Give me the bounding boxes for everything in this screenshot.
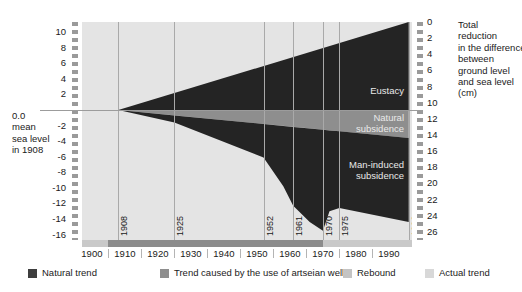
right-axis-tick-12: 12 — [427, 114, 443, 124]
inner-year-label-1996: 1996 — [411, 216, 412, 236]
right-axis-caption-line-4: ground level — [458, 65, 522, 76]
x-axis-tick-1960: 1960 — [275, 249, 305, 259]
area-label-eustacy-line-0: Eustacy — [282, 86, 404, 97]
right-axis-caption-line-3: between — [458, 53, 522, 64]
left-axis-tick--2: -2 — [40, 121, 66, 131]
left-axis-tick--10: -10 — [40, 183, 66, 193]
right-axis-tick-14: 14 — [427, 130, 443, 140]
x-axis-separator-1950 — [240, 249, 241, 258]
left-axis-rail — [72, 22, 78, 240]
right-axis-caption-line-1: reduction — [458, 30, 522, 41]
x-axis-separator-1920 — [141, 249, 142, 258]
inner-year-label-1925: 1925 — [176, 216, 185, 236]
left-axis-tick--6: -6 — [40, 152, 66, 162]
x-axis-tick-1970: 1970 — [308, 249, 338, 259]
x-axis-tick-1980: 1980 — [341, 249, 371, 259]
x-axis-tick-1930: 1930 — [176, 249, 206, 259]
x-axis-separator-1910 — [108, 249, 109, 258]
left-axis-tick--16: -16 — [40, 230, 66, 240]
right-axis-tick-16: 16 — [427, 146, 443, 156]
right-axis-caption-line-6: (cm) — [458, 87, 522, 98]
x-axis-separator-1940 — [207, 249, 208, 258]
inner-year-label-1908: 1908 — [120, 216, 129, 236]
inner-year-label-1975: 1975 — [341, 216, 350, 236]
right-axis-tick-26: 26 — [427, 227, 443, 237]
gridline-1996 — [409, 22, 410, 240]
x-axis-separator-1970 — [306, 249, 307, 258]
right-axis-tick-8: 8 — [427, 82, 443, 92]
legend-label-0: Natural trend — [42, 268, 97, 278]
right-axis-tick-20: 20 — [427, 178, 443, 188]
x-axis-tick-1910: 1910 — [110, 249, 140, 259]
legend-swatch-icon-1 — [160, 269, 169, 278]
left-axis-tick--8: -8 — [40, 167, 66, 177]
right-axis-tick-4: 4 — [427, 49, 443, 59]
area-label-man-induced-line-0: Man-induced — [272, 160, 404, 171]
area-label-man-induced-line-1: subsidence — [272, 171, 404, 182]
left-axis-tick--4: -4 — [40, 136, 66, 146]
gridline-1925 — [174, 22, 175, 240]
plot-panel: 1908192519521961197019751996 Eustacy Nat… — [82, 22, 412, 240]
right-axis-caption-line-0: Total — [458, 19, 522, 30]
gridline-1952 — [264, 22, 265, 240]
inner-year-label-1952: 1952 — [266, 216, 275, 236]
right-axis-tick-22: 22 — [427, 195, 443, 205]
x-axis-separator-1980 — [339, 249, 340, 258]
x-axis-tick-1990: 1990 — [374, 249, 404, 259]
area-label-eustacy: Eustacy — [282, 86, 404, 97]
left-axis-tick-4: 4 — [40, 74, 66, 84]
right-axis-tick-2: 2 — [427, 33, 443, 43]
left-axis-tick--12: -12 — [40, 198, 66, 208]
legend-item-0[interactable]: Natural trend — [28, 266, 97, 280]
x-axis-tick-1940: 1940 — [209, 249, 239, 259]
left-axis-tick-6: 6 — [40, 58, 66, 68]
area-label-natural-subsidence: Natural subsidence — [282, 113, 404, 134]
x-axis-tick-1950: 1950 — [242, 249, 272, 259]
legend-label-1: Trend caused by the use of artseian well… — [174, 268, 349, 278]
left-axis-tick-8: 8 — [40, 43, 66, 53]
right-axis-tick-6: 6 — [427, 65, 443, 75]
inner-year-label-1970: 1970 — [325, 216, 334, 236]
left-axis-tick-10: 10 — [40, 27, 66, 37]
legend-item-3[interactable]: Actual trend — [425, 266, 490, 280]
x-axis-separator-1990 — [372, 249, 373, 258]
left-axis-tick-2: 2 — [40, 89, 66, 99]
right-axis-tick-10: 10 — [427, 98, 443, 108]
x-axis-band-dark-segment — [108, 240, 323, 247]
x-axis-tick-1900: 1900 — [77, 249, 107, 259]
right-axis-caption-line-5: and sea level — [458, 76, 522, 87]
x-axis-separator-1930 — [174, 249, 175, 258]
legend-label-2: Rebound — [357, 268, 396, 278]
area-label-natural-subsidence-line-1: subsidence — [282, 124, 404, 135]
area-label-natural-subsidence-line-0: Natural — [282, 113, 404, 124]
right-axis-caption: Total reduction in the difference betwee… — [458, 19, 522, 99]
gridline-1908 — [118, 22, 119, 240]
legend-swatch-icon-0 — [28, 269, 37, 278]
zero-sea-level-line — [40, 110, 422, 111]
right-axis-tick-0: 0 — [427, 17, 443, 27]
right-axis-rail — [417, 22, 423, 240]
legend-label-3: Actual trend — [439, 268, 490, 278]
chart-root: 0.0 mean sea level in 1908 Total reducti… — [0, 0, 522, 292]
legend-item-2[interactable]: Rebound — [343, 266, 396, 280]
legend-item-1[interactable]: Trend caused by the use of artseian well… — [160, 266, 349, 280]
area-label-man-induced-subsidence: Man-induced subsidence — [272, 160, 404, 181]
right-axis-tick-24: 24 — [427, 211, 443, 221]
right-axis-caption-line-2: in the difference — [458, 42, 522, 53]
x-axis-separator-1960 — [273, 249, 274, 258]
right-axis-tick-18: 18 — [427, 162, 443, 172]
left-axis-tick--14: -14 — [40, 214, 66, 224]
x-axis-band — [82, 240, 412, 247]
legend-swatch-icon-2 — [343, 269, 352, 278]
chart-legend: Natural trendTrend caused by the use of … — [0, 266, 522, 282]
legend-swatch-icon-3 — [425, 269, 434, 278]
inner-year-label-1961: 1961 — [295, 216, 304, 236]
x-axis-tick-1920: 1920 — [143, 249, 173, 259]
